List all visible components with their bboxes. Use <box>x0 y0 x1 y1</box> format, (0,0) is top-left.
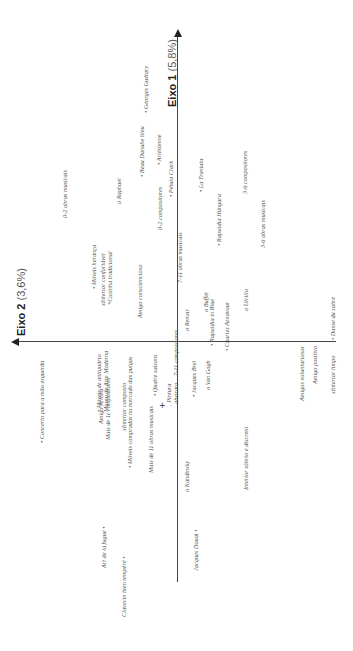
point-label: o Raphael <box>116 178 122 204</box>
axis-1-arrow-icon <box>174 29 182 37</box>
axis-2-arrow-icon <box>11 338 19 346</box>
point-label: • Danse du sabre <box>330 297 336 340</box>
point-label: xInterior limpo <box>330 356 336 394</box>
point-label: abstrata <box>173 383 179 404</box>
point-label: • Rapsódia Húngara <box>216 194 222 246</box>
point-label: o Kandinsky <box>184 461 190 492</box>
axis-1-line <box>177 36 178 582</box>
point-label: o Van Gogh <box>205 360 211 390</box>
point-label: • La Traviata <box>198 159 204 192</box>
point-label: Clavecin bien tempéré • <box>121 557 127 617</box>
point-label: 0-2 obras musicais <box>62 170 68 218</box>
point-label: 3-6 obras musicais <box>260 200 266 248</box>
point-label: xInterior composto <box>121 383 127 431</box>
point-label: • Pétula Clark <box>168 161 174 197</box>
point-label: • Concerto para a mão esquerda <box>39 361 45 443</box>
point-label: Amigos voluntariosos <box>299 346 305 401</box>
point-label: Interior sóbrio e discreto <box>243 427 249 490</box>
point-label: Amigo positivo <box>312 346 318 384</box>
point-label: o Renoir <box>184 309 190 331</box>
point-label: • Arlésienne <box>156 134 162 165</box>
point-label: Mais de 11 compositores <box>105 378 111 440</box>
correspondence-analysis-chart: Eixo 1 (5,8%) Eixo 2 (3,6%) 0-2 obras mu… <box>0 0 353 651</box>
point-label: Mais de 11 obras musicais <box>148 406 154 473</box>
point-label: • Charles Aznavour <box>224 302 230 351</box>
point-label: 7-11 compositores <box>173 330 179 376</box>
point-label: Amigo consciencioso <box>137 265 143 318</box>
point-label: 3-6 compositores <box>242 151 248 194</box>
axis-1-title: Eixo 1 (5,8%) <box>167 39 178 107</box>
point-label: • Jacques Brel <box>191 361 197 397</box>
point-label: *Cozinha tradicional <box>107 251 113 305</box>
point-label: Jacques Douai • <box>193 530 199 571</box>
point-label: 7-11 obras musicais <box>177 232 183 283</box>
point-label: • Georges Guétary <box>143 66 149 113</box>
point-label: • Móveis herança <box>91 245 97 289</box>
axis-2-title: Eixo 2 (3,6%) <box>16 268 27 336</box>
point-label: • Móveis comprados no mercado das pulgas <box>127 357 133 468</box>
point-label: 0-2 compositores <box>157 187 163 230</box>
point-label: • Rapsódia in Blue <box>209 299 215 346</box>
point-label: Art de la fugue • <box>101 527 107 568</box>
point-label: o Utrillo <box>243 289 249 311</box>
point-label: • Quatre saisons <box>152 354 158 396</box>
point-label: • Beau Danube bleu <box>139 126 145 177</box>
